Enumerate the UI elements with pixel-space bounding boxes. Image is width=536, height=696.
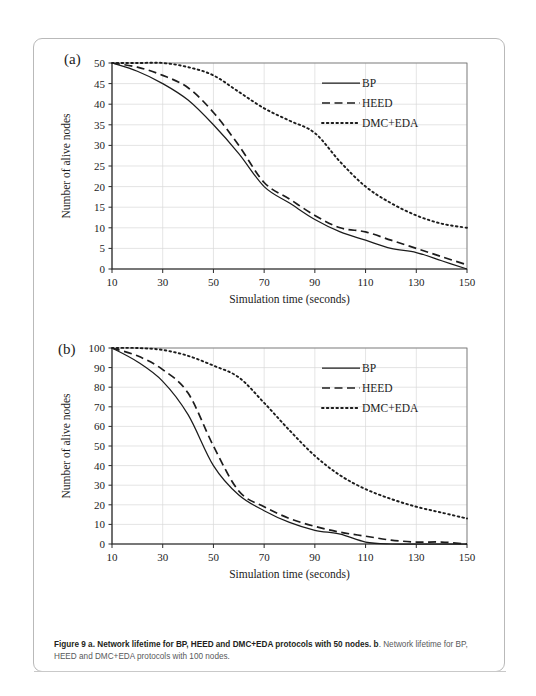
x-tick-label: 50 bbox=[208, 551, 220, 563]
y-tick-label: 40 bbox=[94, 98, 106, 110]
legend-label-bp: BP bbox=[362, 77, 376, 89]
axis-ticks: 0102030405060708090100103050709011013015… bbox=[89, 342, 476, 563]
series-line-heed bbox=[112, 63, 467, 265]
y-tick-label: 35 bbox=[94, 119, 106, 131]
y-tick-label: 50 bbox=[94, 57, 106, 69]
x-tick-label: 30 bbox=[157, 276, 169, 288]
y-tick-label: 70 bbox=[94, 401, 106, 413]
x-tick-label: 130 bbox=[408, 551, 425, 563]
y-tick-label: 60 bbox=[94, 420, 106, 432]
y-tick-label: 20 bbox=[94, 499, 106, 511]
y-tick-label: 100 bbox=[89, 342, 106, 354]
y-axis-title: Number of alive nodes bbox=[60, 113, 72, 219]
figure-card: (a)0510152025303540455010305070901101301… bbox=[33, 38, 505, 672]
x-tick-label: 70 bbox=[259, 276, 271, 288]
y-tick-label: 80 bbox=[94, 381, 106, 393]
x-tick-label: 90 bbox=[309, 551, 321, 563]
x-tick-label: 10 bbox=[107, 551, 119, 563]
legend-label-heed: HEED bbox=[362, 97, 393, 109]
x-tick-label: 130 bbox=[408, 276, 425, 288]
chart-b-svg: (b)0102030405060708090100103050709011013… bbox=[34, 336, 506, 606]
y-tick-label: 15 bbox=[94, 201, 106, 213]
x-tick-label: 50 bbox=[208, 276, 220, 288]
panel-letter-b: (b) bbox=[58, 341, 76, 358]
x-tick-label: 10 bbox=[107, 276, 119, 288]
y-tick-label: 25 bbox=[94, 160, 106, 172]
x-tick-label: 110 bbox=[358, 276, 375, 288]
x-tick-label: 90 bbox=[309, 276, 321, 288]
y-tick-label: 5 bbox=[100, 242, 106, 254]
chart-a-svg: (a)0510152025303540455010305070901101301… bbox=[34, 41, 506, 331]
chart-panel-b: (b)0102030405060708090100103050709011013… bbox=[34, 336, 506, 606]
legend-label-dmc-eda: DMC+EDA bbox=[362, 117, 419, 129]
x-axis-title: Simulation time (seconds) bbox=[229, 293, 350, 306]
y-tick-label: 50 bbox=[94, 440, 106, 452]
caption-divider bbox=[34, 671, 506, 672]
panel-letter-a: (a) bbox=[64, 51, 81, 68]
series-line-dmc-eda bbox=[112, 348, 467, 519]
legend-label-dmc-eda: DMC+EDA bbox=[362, 402, 419, 414]
x-tick-label: 150 bbox=[459, 276, 476, 288]
y-tick-label: 30 bbox=[94, 139, 106, 151]
y-tick-label: 20 bbox=[94, 181, 106, 193]
legend-label-heed: HEED bbox=[362, 382, 393, 394]
y-tick-label: 0 bbox=[100, 263, 106, 275]
figure-caption-bold-a: Figure 9 a. Network lifetime for BP, HEE… bbox=[54, 640, 371, 649]
figure-caption: Figure 9 a. Network lifetime for BP, HEE… bbox=[54, 639, 490, 664]
y-tick-label: 40 bbox=[94, 460, 106, 472]
gridlines bbox=[112, 63, 467, 269]
y-tick-label: 30 bbox=[94, 479, 106, 491]
y-tick-label: 10 bbox=[94, 518, 106, 530]
y-tick-label: 10 bbox=[94, 222, 106, 234]
x-axis-title: Simulation time (seconds) bbox=[229, 568, 350, 581]
x-tick-label: 30 bbox=[157, 551, 169, 563]
x-tick-label: 150 bbox=[459, 551, 476, 563]
y-tick-label: 0 bbox=[100, 538, 106, 550]
y-axis-title: Number of alive nodes bbox=[60, 393, 72, 499]
chart-panel-a: (a)0510152025303540455010305070901101301… bbox=[34, 41, 506, 331]
x-tick-label: 110 bbox=[358, 551, 375, 563]
y-tick-label: 90 bbox=[94, 362, 106, 374]
y-tick-label: 45 bbox=[94, 78, 106, 90]
gridlines bbox=[112, 348, 467, 544]
x-tick-label: 70 bbox=[259, 551, 271, 563]
legend-label-bp: BP bbox=[362, 362, 376, 374]
